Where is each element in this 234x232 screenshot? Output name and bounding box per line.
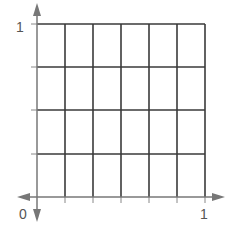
coordinate-grid-diagram: 1 0 1	[0, 0, 234, 232]
y-axis-up-arrow-icon	[33, 3, 41, 16]
origin-label: 0	[19, 206, 27, 222]
grid-lines	[37, 24, 205, 197]
x-axis-max-label: 1	[200, 206, 208, 222]
x-axis-left-arrow-icon	[17, 193, 30, 201]
tick-marks	[31, 24, 205, 203]
x-axis-right-arrow-icon	[212, 193, 225, 201]
y-axis-max-label: 1	[16, 19, 24, 35]
y-axis-down-arrow-icon	[33, 209, 41, 222]
y-axis	[33, 3, 41, 222]
